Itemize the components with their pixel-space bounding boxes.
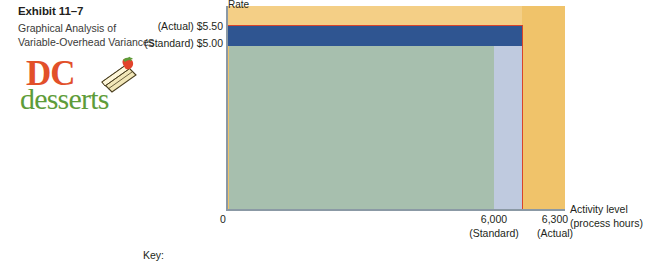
x-tick-standard-sublabel: (Standard): [462, 226, 526, 240]
legend-key-label: Key:: [143, 249, 164, 261]
x-tick-zero-value: 0: [208, 212, 238, 226]
variable-overhead-variance-chart: Rate (Actual) $5.50 (Standard) $5.00 0 6…: [0, 0, 661, 265]
x-tick-zero: 0: [208, 212, 238, 226]
y-tick-standard-rate: (Standard) $5.00: [144, 37, 223, 49]
x-axis-title-line-1: Activity level: [570, 202, 660, 216]
region-actual-cost-top-cap: [228, 6, 522, 25]
y-axis-line: [226, 6, 228, 211]
y-axis-title: Rate: [228, 0, 249, 10]
x-axis-title: Activity level (process hours): [570, 202, 660, 230]
x-axis-line: [226, 209, 565, 211]
x-axis-tick-group: 0 6,000 (Standard) 6,300 (Actual): [0, 212, 661, 252]
x-axis-title-line-2: (process hours): [570, 216, 660, 230]
x-tick-standard-value: 6,000: [462, 212, 526, 226]
y-tick-actual-rate: (Actual) $5.50: [158, 20, 223, 32]
x-tick-standard-hours: 6,000 (Standard): [462, 212, 526, 240]
standard-cost-outline: [227, 25, 523, 210]
